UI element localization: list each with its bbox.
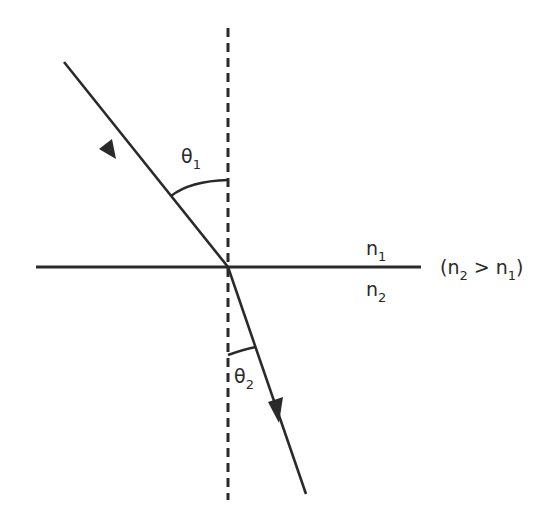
index-condition-label: (n2 > n1) (440, 256, 524, 283)
refraction-diagram: θ1 θ2 n1 n2 (n2 > n1) (0, 0, 540, 529)
n1-label: n1 (366, 237, 386, 264)
theta1-arc (171, 180, 228, 196)
incident-arrow-icon (99, 139, 116, 159)
theta2-arc (228, 347, 256, 355)
n2-label: n2 (366, 278, 386, 305)
theta1-label: θ1 (181, 145, 201, 172)
theta2-label: θ2 (234, 365, 254, 392)
incident-ray (64, 62, 228, 267)
